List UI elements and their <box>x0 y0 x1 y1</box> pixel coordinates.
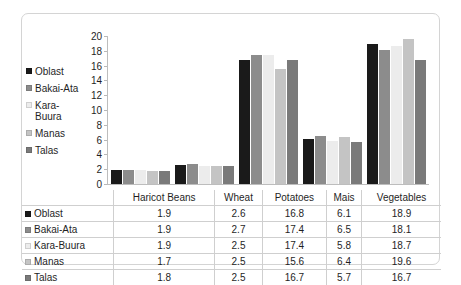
table-row-label: Manas <box>34 256 64 267</box>
bar[interactable] <box>251 55 262 184</box>
bar[interactable] <box>287 60 298 184</box>
bar[interactable] <box>175 165 186 184</box>
value-axis-tick-mark <box>104 169 107 170</box>
table-cell: 5.8 <box>327 238 362 254</box>
table-cell: 2.7 <box>215 222 262 238</box>
legend-swatch-icon <box>26 147 32 153</box>
value-axis-tick-mark <box>104 95 107 96</box>
table-cell: 2.5 <box>215 238 262 254</box>
table-head: Haricot BeansWheatPotatoesMaisVegetables <box>22 190 441 206</box>
legend-swatch-icon <box>26 130 32 136</box>
bar[interactable] <box>315 136 326 184</box>
value-axis-tick-label: 16 <box>91 60 102 71</box>
table-cell: 1.7 <box>114 254 215 270</box>
table-cell: 6.1 <box>327 206 362 222</box>
bar[interactable] <box>275 69 286 184</box>
table-cell: 18.1 <box>362 222 441 238</box>
table-cell: 2.6 <box>215 206 262 222</box>
table-cell: 19.6 <box>362 254 441 270</box>
bar[interactable] <box>159 171 170 184</box>
table-column-header: Vegetables <box>362 190 441 206</box>
bar[interactable] <box>391 46 402 184</box>
legend-swatch-icon <box>26 102 32 108</box>
table-header-row: Haricot BeansWheatPotatoesMaisVegetables <box>22 190 441 206</box>
value-axis-tick-mark <box>104 140 107 141</box>
bar[interactable] <box>327 141 338 184</box>
bar-group <box>301 36 365 184</box>
table-row: Bakai-Ata1.92.717.46.518.1 <box>22 222 441 238</box>
value-axis-tick-label: 6 <box>96 134 102 145</box>
table-row-header: Talas <box>22 270 114 285</box>
bar[interactable] <box>351 142 362 184</box>
bar[interactable] <box>367 44 378 184</box>
legend-label: Talas <box>35 145 58 156</box>
table-row-label: Talas <box>34 272 57 283</box>
table-row-header: Manas <box>22 254 114 270</box>
value-axis-tick-mark <box>104 184 107 185</box>
value-axis-tick-label: 18 <box>91 45 102 56</box>
bar[interactable] <box>123 170 134 184</box>
table-cell: 16.7 <box>262 270 326 285</box>
value-axis-tick-mark <box>104 80 107 81</box>
table-row: Kara-Buura1.92.517.45.818.7 <box>22 238 441 254</box>
legend-swatch-icon <box>26 68 32 74</box>
table-cell: 1.9 <box>114 206 215 222</box>
table-cell: 18.9 <box>362 206 441 222</box>
legend-swatch-icon <box>26 85 32 91</box>
legend-label: Oblast <box>35 66 64 77</box>
value-axis-tick-label: 14 <box>91 75 102 86</box>
table-row: Talas1.82.516.75.716.7 <box>22 270 441 285</box>
table-cell: 18.7 <box>362 238 441 254</box>
table-swatch-icon <box>25 275 31 281</box>
value-axis-tick-mark <box>104 125 107 126</box>
value-axis-tick-label: 4 <box>96 149 102 160</box>
bar[interactable] <box>199 166 210 185</box>
bar[interactable] <box>263 55 274 184</box>
legend-label: Kara- Buura <box>35 100 62 122</box>
value-axis: 02468101214161820 <box>82 36 102 184</box>
table-column-header: Haricot Beans <box>114 190 215 206</box>
bar[interactable] <box>135 170 146 184</box>
table-cell: 16.8 <box>262 206 326 222</box>
table-cell: 2.5 <box>215 254 262 270</box>
bar-group <box>108 36 172 184</box>
bar[interactable] <box>111 170 122 184</box>
bar-group <box>172 36 236 184</box>
table-row-label: Bakai-Ata <box>34 224 77 235</box>
bar[interactable] <box>303 139 314 184</box>
table-column-header: Wheat <box>215 190 262 206</box>
table-cell: 1.8 <box>114 270 215 285</box>
value-axis-tick-mark <box>104 66 107 67</box>
value-axis-tick-mark <box>104 154 107 155</box>
table-cell: 6.5 <box>327 222 362 238</box>
value-axis-tick-label: 10 <box>91 105 102 116</box>
category-axis-line <box>107 184 429 185</box>
bar[interactable] <box>403 39 414 184</box>
bar[interactable] <box>187 164 198 184</box>
bar[interactable] <box>239 60 250 184</box>
table-cell: 6.4 <box>327 254 362 270</box>
table-cell: 2.5 <box>215 270 262 285</box>
table-row: Oblast1.92.616.86.118.9 <box>22 206 441 222</box>
table-column-header: Potatoes <box>262 190 326 206</box>
legend-label: Manas <box>35 128 65 139</box>
table-cell: 1.9 <box>114 238 215 254</box>
value-axis-tick-label: 2 <box>96 164 102 175</box>
bar[interactable] <box>147 171 158 184</box>
chart-figure-frame: OblastBakai-AtaKara- BuuraManasTalas 024… <box>21 13 440 265</box>
table-row: Manas1.72.515.66.419.6 <box>22 254 441 270</box>
table-column-header: Mais <box>327 190 362 206</box>
table-cell: 15.6 <box>262 254 326 270</box>
table-body: Oblast1.92.616.86.118.9Bakai-Ata1.92.717… <box>22 206 441 285</box>
bar[interactable] <box>339 137 350 184</box>
table-row-label: Oblast <box>34 208 63 219</box>
value-axis-tick-label: 0 <box>96 179 102 190</box>
bar[interactable] <box>223 166 234 185</box>
table-swatch-icon <box>25 227 31 233</box>
table-row-header: Bakai-Ata <box>22 222 114 238</box>
bar[interactable] <box>415 60 426 184</box>
value-axis-tick-label: 20 <box>91 31 102 42</box>
table-swatch-icon <box>25 243 31 249</box>
bar[interactable] <box>211 166 222 185</box>
bar[interactable] <box>379 50 390 184</box>
